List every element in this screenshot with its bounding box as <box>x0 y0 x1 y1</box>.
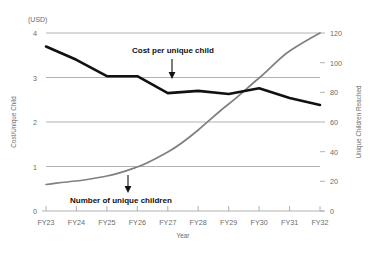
x-tick-label-FY29: FY29 <box>220 218 237 227</box>
y-tick-label-1: 1 <box>33 163 37 172</box>
x-tick-label-FY23: FY23 <box>37 218 54 227</box>
series-line-number-of-unique-children <box>46 33 320 185</box>
y2-tick-label-0: 0 <box>330 207 334 216</box>
x-tick-label-FY27: FY27 <box>159 218 176 227</box>
y-axis-title: Cost/Unique Child <box>10 96 18 148</box>
y2-axis-tick-labels: 120 100 80 60 40 20 0 <box>330 29 342 216</box>
dual-axis-line-chart: 4 3 2 1 0 120 100 80 60 40 20 0 FY23 FY2… <box>0 0 379 255</box>
x-tick-label-FY26: FY26 <box>129 218 146 227</box>
x-tick-label-FY28: FY28 <box>190 218 207 227</box>
y2-tick-label-40: 40 <box>330 148 338 157</box>
series-line-cost-per-unique-child <box>46 47 320 106</box>
x-tick-label-FY31: FY31 <box>281 218 298 227</box>
y2-tick-label-80: 80 <box>330 88 338 97</box>
y-tick-label-4: 4 <box>33 29 37 38</box>
x-tick-label-FY24: FY24 <box>68 218 85 227</box>
y-axis-tick-labels: 4 3 2 1 0 <box>33 29 37 216</box>
annotation-cost-per-unique-child: Cost per unique child <box>132 46 214 79</box>
y2-tick-label-100: 100 <box>330 59 342 68</box>
x-tick-label-FY30: FY30 <box>251 218 268 227</box>
y-axis-unit-label: (USD) <box>28 16 47 24</box>
y-tick-label-2: 2 <box>33 118 37 127</box>
chart-container: 4 3 2 1 0 120 100 80 60 40 20 0 FY23 FY2… <box>0 0 379 255</box>
x-axis-title: Year <box>177 232 191 239</box>
y2-tick-label-120: 120 <box>330 29 342 38</box>
x-tick-label-FY25: FY25 <box>98 218 115 227</box>
annotation-label-cost-per-unique-child: Cost per unique child <box>132 46 214 55</box>
y2-tick-label-20: 20 <box>330 177 338 186</box>
x-axis-tick-labels: FY23 FY24 FY25 FY26 FY27 FY28 FY29 FY30 … <box>37 218 328 227</box>
y2-axis-ticks <box>320 33 325 211</box>
annotation-arrow-head-children <box>125 186 132 193</box>
y2-tick-label-60: 60 <box>330 118 338 127</box>
annotation-label-number-of-unique-children: Number of unique children <box>70 196 172 205</box>
y2-axis-title: Unique Children Reached <box>355 85 363 159</box>
y-tick-label-0: 0 <box>33 207 37 216</box>
x-axis <box>42 206 324 211</box>
x-tick-label-FY32: FY32 <box>311 218 328 227</box>
y-tick-label-3: 3 <box>33 74 37 83</box>
